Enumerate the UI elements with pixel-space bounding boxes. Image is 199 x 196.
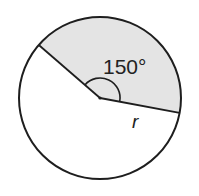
angle-label: 150° bbox=[103, 55, 146, 78]
circle-sector-diagram: 150° r bbox=[0, 0, 199, 196]
center-point bbox=[98, 96, 101, 99]
radius-label: r bbox=[132, 111, 139, 132]
